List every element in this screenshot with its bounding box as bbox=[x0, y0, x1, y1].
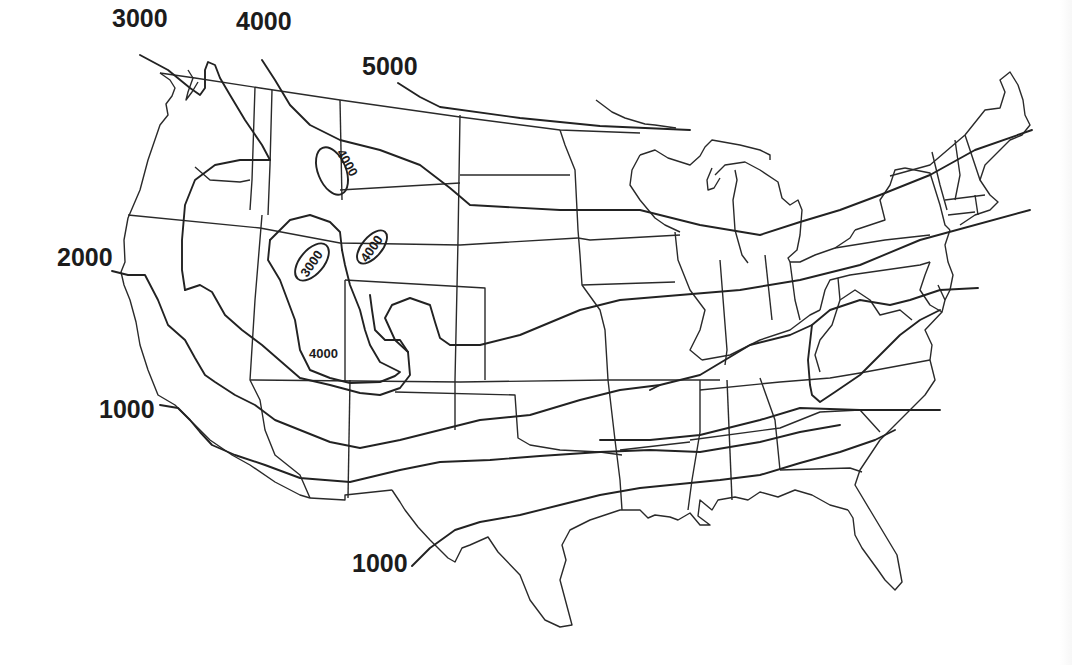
contour-lines bbox=[112, 55, 1032, 566]
contour-label-4000-west: 4000 bbox=[236, 7, 292, 35]
contour-label-1000-west: 1000 bbox=[99, 395, 155, 423]
contour-label-5000-north: 5000 bbox=[362, 52, 418, 80]
contour-label-4000-montana: 4000 bbox=[334, 146, 361, 179]
contour-label-4000-wyoming: 4000 bbox=[357, 232, 386, 264]
contour-label-3000-west: 3000 bbox=[112, 4, 168, 32]
contour-label-2000-west: 2000 bbox=[57, 243, 113, 271]
contour-label-1000-south: 1000 bbox=[352, 549, 408, 577]
contour-label-4000-colorado: 4000 bbox=[309, 346, 338, 361]
us-contour-map: 3000 4000 5000 2000 1000 1000 4000 3000 … bbox=[0, 0, 1072, 665]
contour-labels: 3000 4000 5000 2000 1000 1000 4000 3000 … bbox=[57, 4, 418, 577]
page-edge-shadow bbox=[1060, 0, 1072, 665]
state-borders bbox=[121, 70, 1030, 627]
contour-label-3000-utah: 3000 bbox=[297, 247, 326, 279]
